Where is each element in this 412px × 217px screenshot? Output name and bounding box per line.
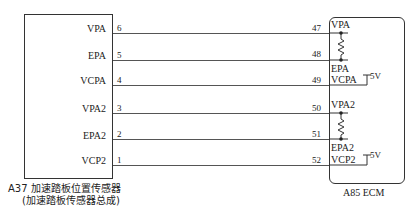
sensor-caption-sub: (加速踏板传感器总成) [22,195,120,206]
sensor-caption: A37 加速踏板位置传感器 [8,183,121,194]
ecm-caption: A85 ECM [343,188,384,198]
